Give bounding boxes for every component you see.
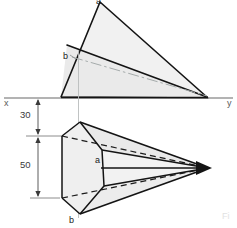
- dimension-label-30: 30: [20, 110, 31, 120]
- top-view-apex-tip: [196, 161, 212, 175]
- top-label-b: b: [69, 216, 74, 225]
- dimension-group: [26, 99, 66, 198]
- projection-drawing-svg: [0, 0, 237, 228]
- front-elevation-view: [61, 2, 208, 98]
- dimension-arrow-50-bottom: [35, 191, 40, 197]
- axis-label-x: x: [4, 99, 9, 108]
- top-plan-view: [62, 122, 212, 214]
- dimension-label-50: 50: [20, 160, 31, 170]
- top-label-a: a: [95, 156, 100, 165]
- axis-label-y: y: [227, 99, 232, 108]
- front-label-b: b: [63, 52, 68, 61]
- dimension-arrow-50-top: [35, 137, 40, 143]
- technical-drawing-canvas: x y a b 30 50 a b Fi: [0, 0, 237, 228]
- watermark-text: Fi: [222, 212, 230, 221]
- dimension-arrow-30-bottom: [35, 129, 40, 135]
- dimension-arrow-30-top: [35, 99, 40, 105]
- front-apex-label-a: a: [96, 0, 101, 6]
